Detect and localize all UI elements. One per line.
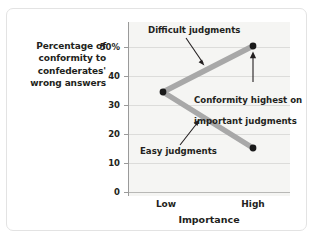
y-tickmark-0: [124, 192, 128, 193]
x-tick-label-low: Low: [136, 199, 196, 209]
y-tick-label-30: 30: [90, 100, 120, 110]
gridline-50: [129, 47, 290, 48]
annotation-conformity-highest-line-1: Conformity highest on: [194, 95, 302, 106]
y-tickmark-40: [124, 76, 128, 77]
y-tickmark-30: [124, 105, 128, 106]
annotation-easy-judgments: Easy judgments: [140, 146, 217, 157]
y-tick-label-40: 40: [90, 71, 120, 81]
y-tick-label-0: 0: [90, 187, 120, 197]
annotation-difficult-judgments: Difficult judgments: [148, 25, 240, 36]
gridline-10: [129, 163, 290, 164]
annotation-conformity-highest-line-2: important judgments: [194, 116, 302, 127]
figure-root: Percentage of conformity to confederates…: [0, 0, 315, 240]
y-tick-label-10: 10: [90, 158, 120, 168]
gridline-0: [129, 192, 290, 193]
y-axis-label-line-2: conformity to: [14, 52, 106, 64]
annotation-conformity-highest: Conformity highest on important judgment…: [194, 84, 302, 137]
x-axis-title: Importance: [128, 214, 290, 225]
y-tickmark-20: [124, 134, 128, 135]
y-tickmark-10: [124, 163, 128, 164]
gridline-40: [129, 76, 290, 77]
x-tick-label-high: High: [223, 199, 283, 209]
y-tick-label-20: 20: [90, 129, 120, 139]
y-tickmark-50: [124, 47, 128, 48]
y-tick-label-50: 50%: [90, 42, 120, 52]
